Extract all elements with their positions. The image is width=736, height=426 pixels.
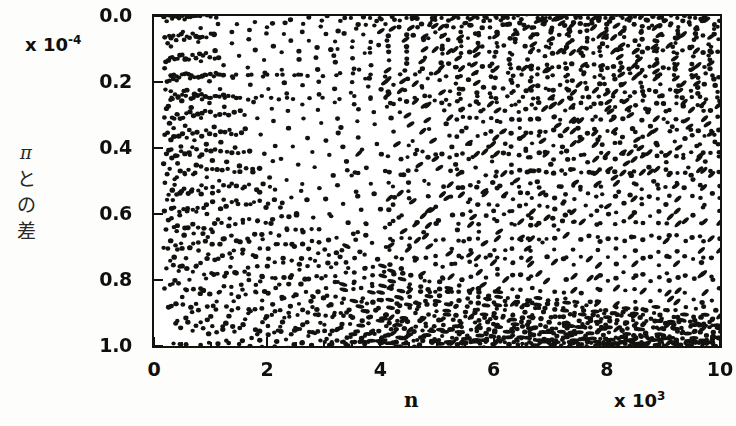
- y-tick-label-0: 1.0: [0, 334, 132, 356]
- x-axis-multiplier-base: x 10: [614, 390, 657, 411]
- x-minor-tick: [521, 342, 523, 348]
- y-axis-multiplier-exponent: -4: [68, 33, 81, 47]
- x-tick-label-3: 6: [464, 358, 524, 380]
- x-tick-label-0: 0: [124, 358, 184, 380]
- x-axis-multiplier-label: x 103: [614, 389, 665, 411]
- x-tick-4: [606, 337, 608, 348]
- y-tick-label-5: 0.0: [0, 4, 132, 26]
- x-minor-tick: [238, 342, 240, 348]
- x-minor-tick: [549, 342, 551, 348]
- x-minor-tick: [408, 342, 410, 348]
- x-minor-tick: [351, 342, 353, 348]
- y-tick-2: [152, 213, 163, 215]
- x-tick-5: [719, 337, 721, 348]
- y-axis-multiplier-label: x 10-4: [25, 33, 81, 55]
- y-tick-label-4: 0.2: [0, 70, 132, 92]
- y-axis-title-char-1: と: [10, 166, 42, 192]
- plot-area: [152, 14, 722, 348]
- x-minor-tick: [691, 342, 693, 348]
- x-minor-tick: [634, 342, 636, 348]
- x-minor-tick: [662, 342, 664, 348]
- x-tick-2: [379, 337, 381, 348]
- x-minor-tick: [210, 342, 212, 348]
- x-tick-0: [153, 337, 155, 348]
- y-tick-1: [152, 279, 163, 281]
- x-minor-tick: [464, 342, 466, 348]
- x-minor-tick: [181, 342, 183, 348]
- y-tick-4: [152, 81, 163, 83]
- y-tick-label-3: 0.4: [0, 136, 132, 158]
- x-minor-tick: [578, 342, 580, 348]
- x-tick-label-2: 4: [350, 358, 410, 380]
- y-tick-3: [152, 147, 163, 149]
- figure-root: x 10-4 π と の 差 1.00.80.60.40.20.00246810…: [0, 0, 736, 426]
- x-minor-tick: [295, 342, 297, 348]
- y-tick-5: [152, 15, 163, 17]
- y-axis-multiplier-base: x 10: [25, 34, 68, 55]
- y-tick-label-1: 0.8: [0, 268, 132, 290]
- y-tick-label-2: 0.6: [0, 202, 132, 224]
- x-tick-label-4: 8: [577, 358, 637, 380]
- x-minor-tick: [323, 342, 325, 348]
- x-minor-tick: [436, 342, 438, 348]
- x-tick-3: [493, 337, 495, 348]
- scatter-plot-canvas: [154, 16, 720, 346]
- x-tick-label-5: 10: [690, 358, 736, 380]
- x-tick-label-1: 2: [237, 358, 297, 380]
- x-axis-title: n: [404, 388, 419, 412]
- x-axis-multiplier-exponent: 3: [657, 389, 665, 403]
- x-tick-1: [266, 337, 268, 348]
